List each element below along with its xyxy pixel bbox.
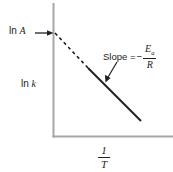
intercept-operator: ln	[9, 25, 17, 36]
slope-denominator: R	[145, 60, 155, 70]
x-axis-numerator: 1	[98, 145, 110, 156]
y-axis-operator: ln	[21, 78, 29, 89]
extrapolated-dashed-line	[55, 33, 89, 69]
intercept-label: ln A	[9, 26, 26, 36]
slope-numerator: Ea	[143, 44, 156, 57]
arrhenius-plot-figure: ln A ln k Slope = − Ea R 1 T	[0, 0, 173, 172]
x-axis-label: 1 T	[98, 145, 110, 170]
ln-a-arrow-icon	[35, 30, 54, 36]
slope-annotation: Slope = − Ea R	[103, 44, 156, 70]
intercept-variable: A	[20, 25, 26, 36]
slope-minus-sign: −	[137, 52, 143, 62]
activation-energy-subscript: a	[151, 49, 154, 56]
y-axis-variable: k	[32, 78, 36, 89]
arrhenius-solid-line	[88, 68, 141, 121]
slope-text: Slope =	[103, 52, 136, 62]
x-axis-denominator: T	[98, 159, 110, 170]
y-axis-label: ln k	[21, 79, 36, 89]
slope-fraction: Ea R	[143, 44, 156, 70]
x-axis-fraction: 1 T	[98, 145, 110, 170]
